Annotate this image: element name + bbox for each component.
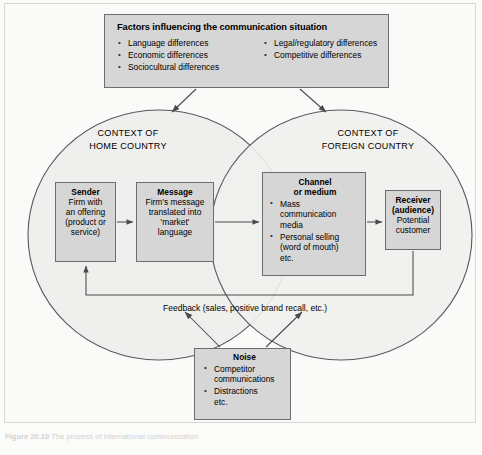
receiver-line: customer: [386, 226, 440, 236]
factor-item: Sociocultural differences: [117, 62, 257, 74]
arrow-factors-to-foreign: [300, 89, 326, 112]
context-home-label: CONTEXT OF HOME COUNTRY: [48, 127, 208, 153]
channel-bullet-cont: media: [269, 220, 361, 231]
figure-caption: Figure 20.10 The process of internationa…: [5, 432, 405, 441]
noise-bullet-cont: communications: [203, 374, 286, 385]
context-foreign-line1: CONTEXT OF: [288, 127, 448, 140]
noise-bullet-cont: etc.: [203, 397, 286, 408]
noise-title: Noise: [203, 353, 286, 363]
arrow-factors-to-home: [172, 89, 196, 112]
message-box: Message Firm's message translated into '…: [136, 182, 214, 262]
context-home-line1: CONTEXT OF: [48, 127, 208, 140]
channel-bullet-cont: communication: [269, 209, 361, 220]
channel-bullet-cont: (word of mouth): [269, 242, 361, 253]
context-home-line2: HOME COUNTRY: [48, 140, 208, 153]
factors-box: Factors influencing the communication si…: [104, 14, 389, 88]
factor-item: Economic differences: [117, 50, 257, 62]
factor-item: Competitive differences: [263, 50, 393, 62]
noise-box: Noise Competitor communications Distract…: [194, 348, 291, 420]
context-foreign-label: CONTEXT OF FOREIGN COUNTRY: [288, 127, 448, 153]
figure-caption-text: The process of international communicati…: [51, 432, 198, 441]
factor-item: Language differences: [117, 38, 257, 50]
factors-column-2: Legal/regulatory differences Competitive…: [263, 38, 393, 74]
message-line: language: [137, 228, 213, 238]
factors-column-1: Language differences Economic difference…: [117, 38, 257, 74]
factors-columns: Language differences Economic difference…: [117, 38, 379, 74]
channel-bullet: Mass: [269, 199, 361, 210]
context-foreign-line2: FOREIGN COUNTRY: [288, 140, 448, 153]
channel-bullet: Personal selling: [269, 232, 361, 243]
noise-bullet: Distractions: [203, 386, 286, 397]
receiver-box: Receiver (audience) Potential customer: [385, 190, 441, 250]
sender-box: Sender Firm with an offering (product or…: [55, 182, 116, 262]
noise-bullet: Competitor: [203, 364, 286, 375]
channel-title-line2: or medium: [269, 188, 361, 198]
figure-caption-label: Figure 20.10: [5, 432, 49, 441]
channel-bullet-cont: etc.: [269, 253, 361, 264]
feedback-label: Feedback (sales, positive brand recall, …: [120, 303, 370, 313]
factors-title: Factors influencing the communication si…: [117, 22, 379, 33]
channel-box: Channel or medium Mass communication med…: [262, 172, 366, 276]
factor-item: Legal/regulatory differences: [263, 38, 393, 50]
figure-container: Factors influencing the communication si…: [0, 0, 482, 455]
sender-line: service): [56, 228, 115, 238]
